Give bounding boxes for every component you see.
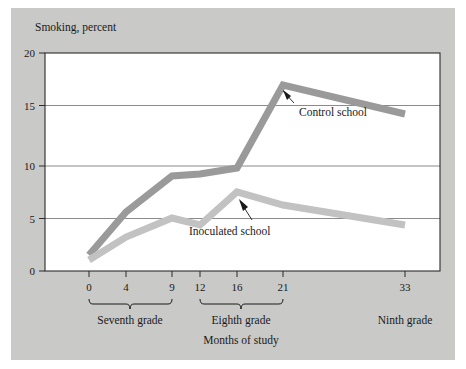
series-label-inoculated-school: Inoculated school [189,225,270,237]
grade-braces [89,299,283,309]
xtick-label-9: 9 [169,281,175,293]
x-axis-title: Months of study [203,334,279,347]
xtick-label-12: 12 [195,281,206,293]
chart-panel: 20 15 10 5 0 Control school Inoculated s… [11,8,455,360]
x-axis-ticks [89,271,405,277]
series-label-control-school: Control school [299,106,367,118]
group-label-seventh-grade: Seventh grade [97,314,162,327]
ytick-label-15: 15 [24,100,36,112]
grade-group-labels: Seventh grade Eighth grade Ninth grade [97,314,432,327]
x-axis-tick-labels: 0 4 9 12 16 21 33 [86,281,411,293]
ytick-label-0: 0 [30,265,36,277]
brace-eighth-grade [200,299,283,309]
xtick-label-4: 4 [123,281,129,293]
xtick-label-33: 33 [400,281,412,293]
group-label-eighth-grade: Eighth grade [211,314,270,327]
brace-seventh-grade [89,299,172,309]
smoking-percent-line-chart: 20 15 10 5 0 Control school Inoculated s… [11,8,455,360]
y-axis-tick-labels: 20 15 10 5 0 [24,47,36,277]
ytick-label-5: 5 [30,213,36,225]
y-axis-ticks [39,53,45,271]
xtick-label-0: 0 [86,281,92,293]
figure-container: 20 15 10 5 0 Control school Inoculated s… [0,0,466,369]
xtick-label-16: 16 [232,281,244,293]
ytick-label-20: 20 [24,47,36,59]
chart-title: Smoking, percent [35,21,117,34]
ytick-label-10: 10 [24,160,36,172]
xtick-label-21: 21 [278,281,289,293]
group-label-ninth-grade: Ninth grade [378,314,433,327]
